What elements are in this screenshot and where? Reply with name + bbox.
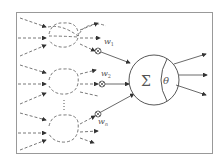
output-arrows (174, 54, 207, 95)
upstream-neuron-n (18, 113, 98, 150)
main-neuron: Σ θ (129, 55, 179, 105)
upstream-neuron-1 (18, 18, 106, 56)
neuron-diagram: w1 w2 wn Σ θ (0, 0, 224, 165)
multiply-node-2 (99, 81, 105, 87)
weight-label-1: w1 (104, 37, 114, 47)
diagram-frame (17, 13, 213, 154)
multiply-node-1 (95, 48, 101, 54)
weight-label-n: wn (98, 117, 108, 127)
threshold-symbol: θ (163, 75, 169, 86)
upstream-neuron-2 (18, 65, 98, 104)
sum-symbol: Σ (141, 73, 151, 89)
weight-label-2: w2 (101, 69, 111, 79)
